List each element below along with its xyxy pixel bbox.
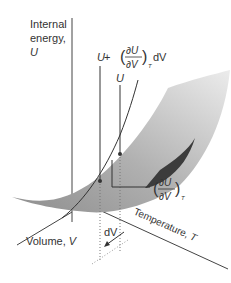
lower-u-label: U — [116, 72, 124, 84]
axis-label-symbol: U — [30, 46, 38, 58]
paren-close: ) — [142, 48, 147, 65]
upper-sub: T — [148, 63, 153, 69]
volume-label: Volume, V — [26, 235, 78, 247]
slope-den: ∂V — [159, 191, 172, 202]
dv-label: dV — [104, 226, 118, 238]
upper-dv: dV — [153, 51, 167, 63]
upper-num: ∂U — [126, 45, 139, 56]
lower-state-point — [98, 179, 102, 183]
temperature-label: Temperature, T — [132, 206, 199, 244]
slope-sub: T — [181, 195, 186, 201]
slope-paren-close: ) — [175, 180, 180, 197]
upper-den: ∂V — [126, 59, 139, 70]
upper-state-point — [118, 152, 122, 156]
axis-label-line1: Internal — [30, 18, 67, 30]
internal-energy-surface-diagram: Internal energy, U U + ( ∂U ∂V ) T dV U … — [0, 0, 231, 283]
energy-surface — [12, 70, 230, 212]
axis-label-line2: energy, — [30, 32, 66, 44]
slope-num: ∂U — [159, 177, 172, 188]
upper-plus: + — [104, 51, 110, 63]
